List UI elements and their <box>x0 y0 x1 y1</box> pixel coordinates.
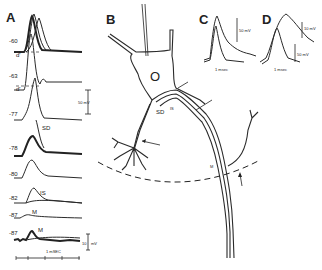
trace-a8 <box>14 231 80 241</box>
axon <box>152 90 234 258</box>
marker-label: d' <box>16 86 20 92</box>
neuron-soma: O <box>108 30 205 150</box>
panel-c-traces <box>204 16 256 62</box>
trace-a5 <box>14 160 82 178</box>
potential-label: -87 <box>9 230 18 236</box>
scale-bar-50mv: 50 mV <box>78 90 91 114</box>
microelectrode <box>142 4 148 56</box>
svg-text:1 mSEC: 1 mSEC <box>46 249 61 254</box>
scale-bar-d-bottom: 50 mV <box>295 44 309 62</box>
potential-label: -80 <box>9 171 18 177</box>
panel-d-label: D <box>262 12 271 27</box>
trace-a7 <box>14 215 82 218</box>
scale-bar-10mv: 10 mV <box>82 234 97 250</box>
marker-label: d' <box>16 52 20 58</box>
svg-text:10 mV: 10 mV <box>304 26 316 31</box>
dendrite-tree <box>112 104 160 170</box>
svg-text:50 mV: 50 mV <box>239 28 251 33</box>
trace-label-sd: SD <box>42 125 51 131</box>
scale-bar-c: 50 mV <box>237 18 251 42</box>
svg-text:50 mV: 50 mV <box>78 100 90 105</box>
time-bar-d: 1 msec <box>274 67 287 72</box>
potential-label: -78 <box>9 145 18 151</box>
soma-label: O <box>150 69 160 84</box>
trace-a3 <box>14 78 82 120</box>
panel-b-label: B <box>106 12 115 27</box>
potential-label: -77 <box>9 111 18 117</box>
potential-label: -87 <box>9 212 18 218</box>
region-label-is: IS <box>170 106 174 111</box>
trace-label-m: M <box>38 227 43 233</box>
region-label-m: M <box>210 164 213 169</box>
time-bar-c: 1 msec <box>215 67 228 72</box>
panel-c-label: C <box>199 12 209 27</box>
potential-label: -60 <box>9 38 18 44</box>
axon-collateral <box>228 110 258 166</box>
trace-a6 <box>14 188 82 203</box>
trace-a1 <box>14 14 82 52</box>
potential-label: -82 <box>9 195 18 201</box>
trace-label-is: IS <box>40 190 46 196</box>
trace-label-m: M <box>32 209 37 215</box>
svg-text:10: 10 <box>82 241 87 246</box>
dashed-boundary <box>98 160 260 182</box>
scale-bar-d-top: 10 mV <box>302 22 316 38</box>
svg-text:mV: mV <box>91 241 97 246</box>
figure-canvas: A -60 d' -63 d' -77 SD 50 mV -78 -80 <box>0 0 322 270</box>
svg-text:50 mV: 50 mV <box>297 52 309 57</box>
trace-a2 <box>14 34 82 90</box>
panel-a-label: A <box>6 10 16 25</box>
potential-label: -63 <box>9 73 18 79</box>
region-label-sd: SD <box>156 109 165 115</box>
time-bar-a: 1 mSEC <box>16 249 80 260</box>
